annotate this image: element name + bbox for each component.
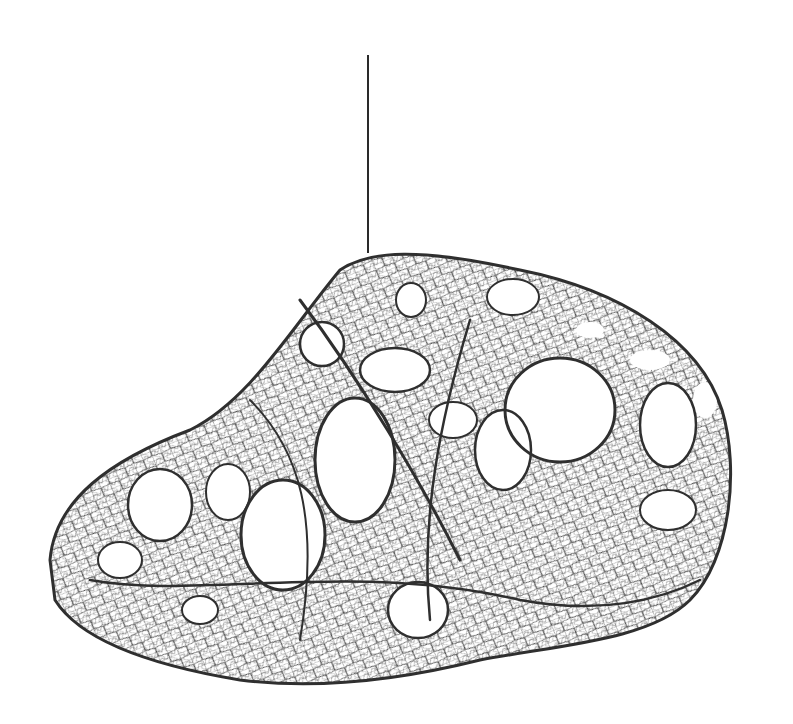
photo-canvas: Hanging pendant sculpture made of a tang… — [0, 0, 793, 724]
mesh-sculpture — [0, 0, 793, 724]
